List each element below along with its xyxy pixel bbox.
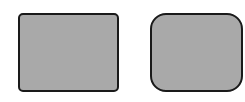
rounded-rectangle-small-radius [18, 13, 119, 92]
rounded-rectangle-large-radius [150, 13, 243, 92]
